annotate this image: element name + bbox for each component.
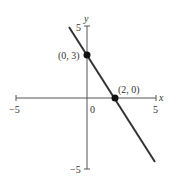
point-0-3 bbox=[84, 52, 91, 59]
plotted-line bbox=[69, 27, 155, 162]
y-min-tick-label: −5 bbox=[70, 164, 81, 175]
point-b-label: (2, 0) bbox=[118, 84, 140, 96]
point-2-0 bbox=[112, 95, 119, 102]
x-axis-label: x bbox=[158, 92, 164, 103]
y-max-tick-label: 5 bbox=[76, 22, 81, 33]
graph: y x 5 −5 −5 5 0 (0, 3) (2, 0) bbox=[0, 0, 178, 184]
x-min-tick-label: −5 bbox=[9, 104, 20, 115]
y-axis-label: y bbox=[83, 13, 89, 24]
point-a-label: (0, 3) bbox=[58, 50, 80, 62]
x-max-tick-label: 5 bbox=[153, 104, 158, 115]
origin-label: 0 bbox=[90, 104, 95, 115]
